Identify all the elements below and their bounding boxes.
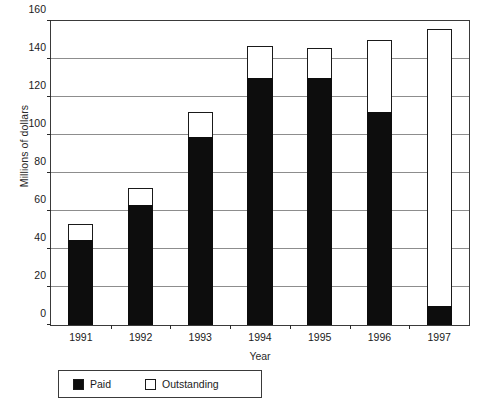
y-tick-mark bbox=[47, 210, 51, 211]
x-tick-label: 1995 bbox=[308, 331, 331, 343]
bar-segment-outstanding bbox=[307, 48, 332, 78]
x-tick-mark bbox=[350, 325, 351, 329]
bar-segment-paid bbox=[367, 112, 392, 325]
x-tick-label: 1993 bbox=[189, 331, 212, 343]
legend-swatch-outstanding-icon bbox=[145, 379, 156, 390]
bar-segment-outstanding bbox=[188, 112, 213, 137]
bar-segment-paid bbox=[247, 78, 272, 325]
y-axis-title: Millions of dollars bbox=[18, 86, 30, 206]
bar-1991 bbox=[68, 224, 93, 325]
y-tick-mark bbox=[47, 286, 51, 287]
legend-entry-paid: Paid bbox=[73, 378, 111, 390]
x-tick-label: 1991 bbox=[69, 331, 92, 343]
bar-1995 bbox=[307, 48, 332, 325]
y-tick-mark bbox=[47, 96, 51, 97]
y-tick-mark bbox=[47, 248, 51, 249]
legend-entry-outstanding: Outstanding bbox=[145, 378, 219, 390]
y-tick-label: 100 bbox=[28, 117, 46, 129]
legend-label-paid: Paid bbox=[90, 378, 111, 390]
bar-segment-outstanding bbox=[247, 46, 272, 78]
y-tick-label: 20 bbox=[34, 269, 46, 281]
y-tick-mark bbox=[47, 134, 51, 135]
x-tick-label: 1996 bbox=[368, 331, 391, 343]
plot-area: 020406080100120140160 199119921993199419… bbox=[50, 20, 470, 326]
y-tick-label: 40 bbox=[34, 231, 46, 243]
x-tick-mark bbox=[290, 325, 291, 329]
y-tick-mark bbox=[47, 58, 51, 59]
bar-segment-outstanding bbox=[427, 29, 452, 306]
bar-1994 bbox=[247, 46, 272, 325]
x-tick-mark bbox=[170, 325, 171, 329]
bar-1997 bbox=[427, 29, 452, 325]
x-tick-label: 1997 bbox=[427, 331, 450, 343]
bar-segment-outstanding bbox=[128, 188, 153, 205]
y-tick-label: 160 bbox=[28, 3, 46, 15]
bar-1996 bbox=[367, 40, 392, 325]
y-tick-mark bbox=[47, 172, 51, 173]
chart-legend: Paid Outstanding bbox=[58, 370, 262, 398]
bar-1992 bbox=[128, 188, 153, 325]
bar-segment-outstanding bbox=[367, 40, 392, 112]
bar-segment-paid bbox=[68, 240, 93, 326]
bar-segment-paid bbox=[307, 78, 332, 325]
bar-1993 bbox=[188, 112, 213, 325]
bar-segment-paid bbox=[188, 137, 213, 325]
x-axis-title: Year bbox=[50, 350, 470, 362]
legend-label-outstanding: Outstanding bbox=[162, 378, 219, 390]
x-tick-label: 1992 bbox=[129, 331, 152, 343]
y-tick-label: 120 bbox=[28, 79, 46, 91]
x-tick-mark bbox=[409, 325, 410, 329]
bar-segment-outstanding bbox=[68, 224, 93, 239]
legend-swatch-paid-icon bbox=[73, 379, 84, 390]
x-tick-mark bbox=[230, 325, 231, 329]
y-tick-mark bbox=[47, 20, 51, 21]
y-tick-label: 140 bbox=[28, 41, 46, 53]
stacked-bar-chart: Millions of dollars 02040608010012014016… bbox=[0, 0, 495, 411]
bar-segment-paid bbox=[427, 306, 452, 325]
y-tick-label: 0 bbox=[40, 307, 46, 319]
y-tick-label: 60 bbox=[34, 193, 46, 205]
x-tick-label: 1994 bbox=[248, 331, 271, 343]
y-tick-label: 80 bbox=[34, 155, 46, 167]
y-tick-mark bbox=[47, 324, 51, 325]
x-tick-mark bbox=[111, 325, 112, 329]
bar-segment-paid bbox=[128, 205, 153, 325]
